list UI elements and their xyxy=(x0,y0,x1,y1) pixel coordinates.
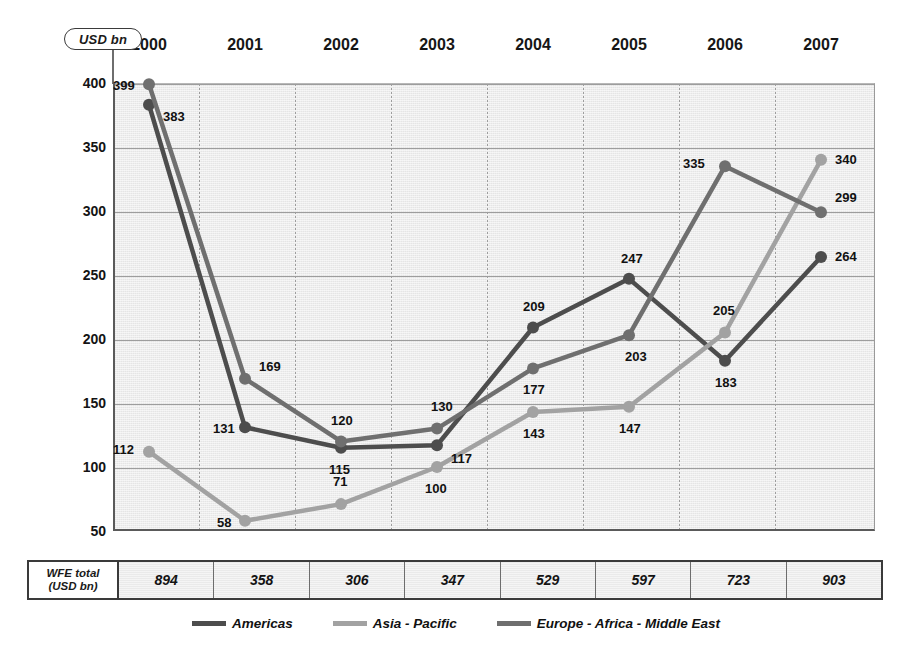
legend-item-1[interactable]: Asia - Pacific xyxy=(333,616,457,631)
data-point-1-6 xyxy=(719,327,731,339)
wfe-cell-2006: 723 xyxy=(691,562,786,598)
data-point-1-0 xyxy=(143,446,155,458)
data-point-1-7 xyxy=(815,154,827,166)
data-label-0-0: 383 xyxy=(163,109,185,124)
year-label-2003: 2003 xyxy=(402,36,472,54)
data-point-0-1 xyxy=(239,421,251,433)
legend-label-0: Americas xyxy=(232,616,293,631)
wfe-cell-2003: 347 xyxy=(405,562,500,598)
series-lines xyxy=(113,83,875,531)
wfe-header-line2: (USD bn) xyxy=(48,580,97,593)
data-point-0-7 xyxy=(815,251,827,263)
data-point-2-4 xyxy=(527,362,539,374)
data-point-0-4 xyxy=(527,321,539,333)
data-point-1-3 xyxy=(431,461,443,473)
y-tick-300: 300 xyxy=(60,203,106,219)
legend-swatch-icon-1 xyxy=(333,621,367,626)
wfe-header-line1: WFE total xyxy=(46,567,99,580)
data-label-1-5: 147 xyxy=(619,421,641,436)
data-label-0-3: 117 xyxy=(451,451,472,466)
legend-swatch-icon-2 xyxy=(497,621,531,626)
year-label-2006: 2006 xyxy=(690,36,760,54)
data-label-2-6: 335 xyxy=(683,156,705,171)
data-label-0-6: 183 xyxy=(715,375,737,390)
y-tick-250: 250 xyxy=(60,267,106,283)
data-point-1-1 xyxy=(239,515,251,527)
wfe-cell-2005: 597 xyxy=(596,562,691,598)
data-label-2-4: 177 xyxy=(523,382,545,397)
chart-legend: AmericasAsia - PacificEurope - Africa - … xyxy=(0,612,912,634)
data-label-2-0: 399 xyxy=(113,78,135,93)
year-label-2002: 2002 xyxy=(306,36,376,54)
data-label-1-7: 340 xyxy=(835,152,857,167)
data-label-2-2: 120 xyxy=(331,413,353,428)
wfe-total-table: WFE total (USD bn) 894358306347529597723… xyxy=(27,560,883,600)
data-point-1-5 xyxy=(623,401,635,413)
y-tick-150: 150 xyxy=(60,395,106,411)
data-point-2-6 xyxy=(719,160,731,172)
y-tick-200: 200 xyxy=(60,331,106,347)
legend-item-0[interactable]: Americas xyxy=(192,616,293,631)
unit-badge: USD bn xyxy=(64,28,142,50)
data-label-0-1: 131 xyxy=(213,421,235,436)
data-label-0-7: 264 xyxy=(835,249,857,264)
data-point-2-3 xyxy=(431,423,443,435)
series-line-1 xyxy=(149,160,821,521)
data-label-2-5: 203 xyxy=(625,349,647,364)
wfe-table-header: WFE total (USD bn) xyxy=(29,562,119,598)
data-point-2-1 xyxy=(239,373,251,385)
data-point-0-3 xyxy=(431,439,443,451)
data-label-1-6: 205 xyxy=(713,303,735,318)
y-tick-400: 400 xyxy=(60,75,106,91)
y-tick-100: 100 xyxy=(60,459,106,475)
wfe-cell-2002: 306 xyxy=(310,562,405,598)
year-label-2005: 2005 xyxy=(594,36,664,54)
wfe-cell-2001: 358 xyxy=(214,562,309,598)
year-label-2004: 2004 xyxy=(498,36,568,54)
data-point-1-2 xyxy=(335,498,347,510)
data-label-1-2: 71 xyxy=(333,474,347,489)
data-point-0-6 xyxy=(719,355,731,367)
wfe-cell-2007: 903 xyxy=(787,562,881,598)
chart-page: USD bn 20002001200220032004200520062007 … xyxy=(0,0,912,664)
data-point-0-5 xyxy=(623,273,635,285)
data-label-0-5: 247 xyxy=(621,251,643,266)
data-point-2-0 xyxy=(143,78,155,90)
data-point-2-7 xyxy=(815,206,827,218)
data-label-1-4: 143 xyxy=(523,426,545,441)
data-point-2-5 xyxy=(623,329,635,341)
data-point-1-4 xyxy=(527,406,539,418)
wfe-cell-2000: 894 xyxy=(119,562,214,598)
data-label-0-4: 209 xyxy=(523,299,545,314)
data-label-2-3: 130 xyxy=(431,399,453,414)
wfe-cell-group: 894358306347529597723903 xyxy=(119,562,881,598)
data-label-1-1: 58 xyxy=(217,515,231,530)
year-label-2001: 2001 xyxy=(210,36,280,54)
legend-label-1: Asia - Pacific xyxy=(373,616,457,631)
legend-swatch-icon-0 xyxy=(192,621,226,626)
y-tick-50: 50 xyxy=(60,523,106,539)
y-tick-350: 350 xyxy=(60,139,106,155)
data-label-2-1: 169 xyxy=(259,359,281,374)
data-label-2-7: 299 xyxy=(835,190,857,205)
legend-label-2: Europe - Africa - Middle East xyxy=(537,616,720,631)
legend-item-2[interactable]: Europe - Africa - Middle East xyxy=(497,616,720,631)
year-label-2007: 2007 xyxy=(786,36,856,54)
data-label-1-3: 100 xyxy=(425,481,447,496)
wfe-cell-2004: 529 xyxy=(501,562,596,598)
data-point-2-2 xyxy=(335,435,347,447)
data-label-1-0: 112 xyxy=(113,442,134,457)
